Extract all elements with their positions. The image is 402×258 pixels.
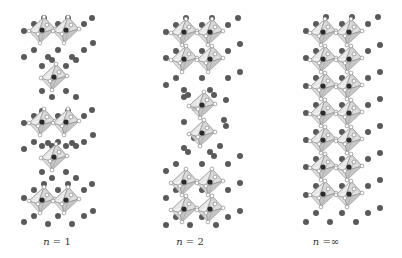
x-site-atom: [50, 168, 54, 172]
a-site-atom: [73, 57, 79, 63]
x-site-atom: [66, 185, 70, 189]
b-site-atom: [207, 56, 212, 61]
x-site-atom: [204, 34, 208, 38]
b-site-atom: [63, 27, 68, 32]
x-site-atom: [323, 152, 327, 156]
b-site-atom: [320, 110, 325, 115]
x-site-atom: [343, 34, 347, 38]
x-site-atom: [343, 61, 347, 65]
a-site-atom: [237, 153, 243, 159]
x-site-atom: [180, 43, 184, 47]
a-site-atom: [303, 219, 309, 225]
x-site-atom: [45, 193, 49, 197]
a-site-atom: [365, 156, 371, 162]
a-site-atom: [377, 123, 383, 129]
octahedron: [169, 17, 199, 47]
a-site-atom: [375, 14, 381, 20]
x-site-atom: [206, 70, 210, 74]
x-site-atom: [178, 34, 182, 38]
x-site-atom: [323, 44, 327, 48]
x-site-atom: [178, 211, 182, 215]
x-site-atom: [187, 52, 191, 56]
x-site-atom: [317, 115, 321, 119]
x-site-atom: [77, 197, 81, 201]
octahedron: [334, 152, 364, 182]
x-site-atom: [317, 142, 321, 146]
x-site-atom: [326, 133, 330, 137]
x-site-atom: [221, 29, 225, 33]
x-site-atom: [349, 44, 353, 48]
a-site-atom: [237, 41, 243, 47]
x-site-atom: [317, 169, 321, 173]
octahedron: [334, 44, 364, 74]
x-site-atom: [326, 160, 330, 164]
b-site-atom: [320, 83, 325, 88]
a-site-atom: [223, 97, 229, 103]
b-site-atom: [320, 191, 325, 196]
label-n2-value: = 2: [183, 236, 204, 247]
x-site-atom: [360, 56, 364, 60]
a-site-atom: [73, 175, 79, 181]
x-site-atom: [27, 121, 31, 125]
x-site-atom: [349, 17, 353, 21]
x-site-atom: [221, 179, 225, 183]
x-site-atom: [69, 23, 73, 27]
a-site-atom: [377, 205, 383, 211]
x-site-atom: [45, 23, 49, 27]
x-site-atom: [352, 52, 356, 56]
label-ninf: n =∞: [313, 236, 339, 247]
a-site-atom: [339, 210, 345, 216]
a-site-atom: [173, 161, 179, 167]
octahedron: [334, 71, 364, 101]
a-site-atom: [55, 213, 61, 219]
x-site-atom: [343, 169, 347, 173]
x-site-atom: [198, 144, 202, 148]
a-site-atom: [31, 139, 37, 145]
a-site-atom: [365, 75, 371, 81]
a-site-atom: [49, 57, 55, 63]
octahedron: [169, 44, 199, 74]
a-site-atom: [225, 75, 231, 81]
x-site-atom: [65, 74, 69, 78]
x-site-atom: [213, 102, 217, 106]
a-site-atom: [235, 15, 241, 21]
x-site-atom: [60, 202, 64, 206]
x-site-atom: [323, 71, 327, 75]
a-site-atom: [73, 94, 79, 100]
x-site-atom: [169, 181, 173, 185]
x-site-atom: [334, 58, 338, 62]
a-site-atom: [223, 123, 229, 129]
a-site-atom: [39, 63, 45, 69]
x-site-atom: [184, 167, 188, 171]
x-site-atom: [210, 44, 214, 48]
b-site-atom: [346, 83, 351, 88]
x-site-atom: [77, 27, 81, 31]
x-site-atom: [204, 184, 208, 188]
b-site-atom: [63, 197, 68, 202]
x-site-atom: [65, 154, 69, 158]
x-site-atom: [323, 125, 327, 129]
x-site-atom: [38, 211, 42, 215]
panel-n2: [163, 15, 243, 228]
x-site-atom: [178, 61, 182, 65]
octahedron: [308, 98, 338, 128]
x-site-atom: [184, 44, 188, 48]
x-site-atom: [180, 193, 184, 197]
a-site-atom: [55, 187, 61, 193]
a-site-atom: [187, 222, 193, 228]
x-site-atom: [204, 211, 208, 215]
x-site-atom: [62, 41, 66, 45]
a-site-atom: [39, 143, 45, 149]
x-site-atom: [308, 166, 312, 170]
a-site-atom: [213, 222, 219, 228]
x-site-atom: [213, 52, 217, 56]
x-site-atom: [360, 83, 364, 87]
x-site-atom: [195, 208, 199, 212]
a-site-atom: [211, 153, 217, 159]
perovskite-structures-figure: [0, 0, 402, 258]
a-site-atom: [49, 175, 55, 181]
x-site-atom: [360, 191, 364, 195]
x-site-atom: [334, 139, 338, 143]
a-site-atom: [31, 187, 37, 193]
a-site-atom: [81, 21, 87, 27]
